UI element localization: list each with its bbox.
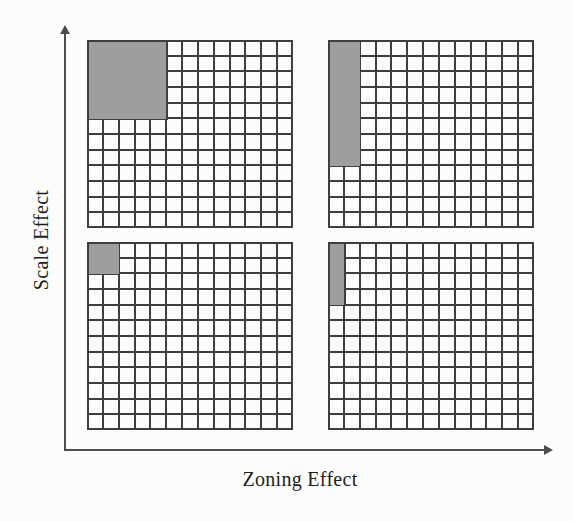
x-axis-line bbox=[64, 449, 546, 451]
y-axis-arrowhead-icon bbox=[60, 25, 70, 34]
x-axis-label: Zoning Effect bbox=[242, 468, 357, 491]
grid-panel-bottom-left bbox=[87, 242, 293, 430]
grid-panel-svg-top-left bbox=[87, 40, 293, 228]
grid-panel-top-right bbox=[328, 40, 534, 228]
grid-panel-top-left bbox=[87, 40, 293, 228]
grid-panel-svg-bottom-right bbox=[328, 242, 534, 430]
maup-effects-figure: Scale Effect Zoning Effect bbox=[0, 0, 573, 521]
x-axis-arrowhead-icon bbox=[544, 445, 553, 455]
y-axis-label: Scale Effect bbox=[30, 190, 53, 290]
grid-panel-bottom-right bbox=[328, 242, 534, 430]
grid-panel-svg-bottom-left bbox=[87, 242, 293, 430]
y-axis-line bbox=[64, 33, 66, 450]
grid-panel-svg-top-right bbox=[328, 40, 534, 228]
